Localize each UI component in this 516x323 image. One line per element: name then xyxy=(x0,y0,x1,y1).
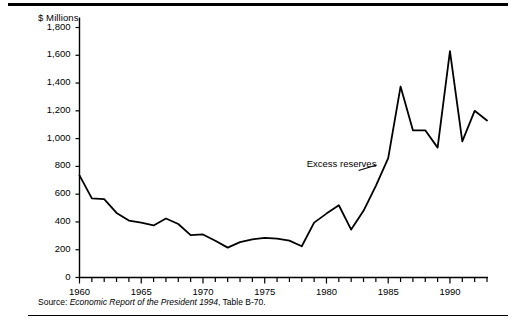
y-axis-tick-label: 200 xyxy=(27,243,71,254)
figure-container: $ Millions 02004006008001,0001,2001,4001… xyxy=(0,0,516,323)
source-title: Economic Report of the President 1994 xyxy=(70,297,218,307)
x-axis-tick-label: 1960 xyxy=(57,286,103,297)
y-axis-tick-label: 1,400 xyxy=(27,76,71,87)
x-axis-tick-label: 1965 xyxy=(118,286,164,297)
y-axis-tick-label: 600 xyxy=(27,187,71,198)
x-axis-tick-label: 1980 xyxy=(303,286,349,297)
x-axis-tick-label: 1975 xyxy=(242,286,288,297)
source-note: Source: Economic Report of the President… xyxy=(38,297,266,307)
y-axis-tick-label: 1,000 xyxy=(27,132,71,143)
y-axis-tick-label: 1,200 xyxy=(27,104,71,115)
source-label: Source: xyxy=(38,297,67,307)
series-annotation-label: Excess reserves xyxy=(307,158,377,169)
series-layer xyxy=(80,51,488,248)
y-axis-tick-label: 1,600 xyxy=(27,48,71,59)
y-axis-tick-label: 1,800 xyxy=(27,21,71,32)
y-axis-tick-label: 400 xyxy=(27,215,71,226)
x-axis-tick-label: 1970 xyxy=(180,286,226,297)
y-axis-tick-label: 800 xyxy=(27,159,71,170)
source-tail: , Table B-70. xyxy=(218,297,266,307)
y-axis-tick-label: 0 xyxy=(27,271,71,282)
bottom-rule xyxy=(28,315,508,316)
data-line-excess-reserves xyxy=(80,51,488,248)
line-chart-plot xyxy=(0,0,516,323)
axes-layer xyxy=(76,18,489,284)
x-axis-tick-label: 1985 xyxy=(365,286,411,297)
x-axis-tick-label: 1990 xyxy=(427,286,473,297)
